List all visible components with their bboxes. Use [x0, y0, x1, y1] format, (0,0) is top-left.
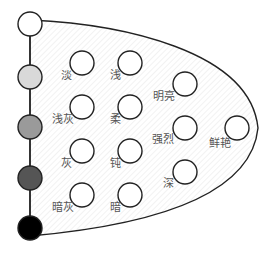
tone-circle-dull	[118, 139, 142, 163]
tone-circle-pale	[70, 51, 94, 75]
tone-circle-grayish	[70, 139, 94, 163]
tone-label-grayish: 灰	[61, 158, 72, 170]
tone-circle-soft	[118, 95, 142, 119]
tone-label-light-grayish: 浅灰	[52, 114, 74, 126]
tone-label-dark-grayish: 暗灰	[52, 202, 74, 214]
tone-circle-bright	[173, 72, 197, 96]
tone-label-deep: 深	[163, 178, 174, 190]
tone-label-pale: 淡	[61, 70, 72, 82]
neutral-dark-gray	[18, 166, 42, 190]
tone-circle-deep	[173, 160, 197, 184]
tone-label-vivid: 鲜艳	[209, 138, 231, 150]
tone-label-dark: 暗	[110, 202, 121, 214]
tone-label-dull: 钝	[110, 158, 121, 170]
tone-label-bright: 明亮	[153, 91, 175, 103]
tone-label-soft: 柔	[110, 114, 121, 126]
neutral-black	[18, 216, 42, 240]
neutral-mid-gray	[18, 115, 42, 139]
tone-diagram	[0, 0, 274, 254]
tone-label-light: 浅	[110, 70, 121, 82]
tone-circle-dark	[118, 183, 142, 207]
tone-label-strong: 强烈	[152, 134, 174, 146]
neutral-light-gray	[18, 65, 42, 89]
tone-circle-light	[118, 51, 142, 75]
tone-circle-strong	[173, 116, 197, 140]
neutral-white	[18, 12, 42, 36]
